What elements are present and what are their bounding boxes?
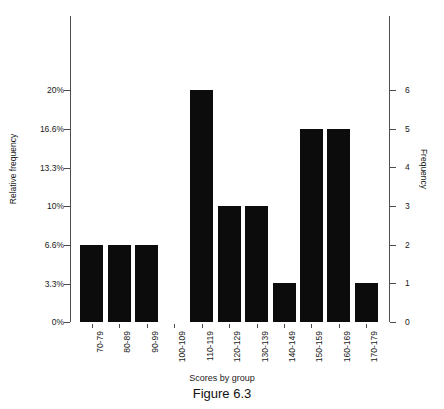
- x-axis-tick: [284, 324, 285, 328]
- y-axis-left-tick: [64, 168, 70, 169]
- x-axis-tick-label: 120-129: [233, 331, 242, 362]
- x-axis-tick: [202, 324, 203, 328]
- x-axis-tick-label: 150-159: [315, 331, 324, 362]
- bar-series: [70, 16, 390, 322]
- figure-caption: Figure 6.3: [0, 386, 444, 401]
- bar: [108, 245, 131, 322]
- y-axis-left-tick-labels: 0%3.3%6.6%10%13.3%16.6%20%: [24, 16, 64, 322]
- y-axis-right-tick-label: 2: [396, 241, 444, 250]
- y-axis-left-tick-label: 6.6%: [24, 241, 64, 250]
- bar: [245, 206, 268, 322]
- x-axis-tick: [147, 324, 148, 328]
- x-axis-tick-label: 130-139: [261, 331, 270, 362]
- y-axis-left-tick-label: 10%: [24, 202, 64, 211]
- x-axis-tick: [311, 324, 312, 328]
- y-axis-left-tick: [64, 322, 70, 323]
- x-axis-tick: [257, 324, 258, 328]
- bar: [80, 245, 103, 322]
- x-axis-tick-label: 140-149: [288, 331, 297, 362]
- y-axis-right-tick-labels: 0123456: [396, 16, 436, 322]
- x-axis-tick-label: 110-119: [206, 331, 215, 361]
- x-axis-tick: [229, 324, 230, 328]
- y-axis-left-tick-label: 20%: [24, 86, 64, 95]
- x-axis-tick-label: 100-109: [178, 331, 187, 362]
- y-axis-right-tick-label: 6: [396, 86, 444, 95]
- x-axis-tick-label: 90-99: [151, 331, 160, 353]
- y-axis-right-tick-label: 1: [396, 279, 444, 288]
- y-axis-left-tick: [64, 245, 70, 246]
- y-axis-left-tick-label: 0%: [24, 318, 64, 327]
- x-axis-tick-labels: 70-7980-8990-99100-109110-119120-129130-…: [70, 324, 390, 372]
- x-axis-tick-label: 160-169: [343, 331, 352, 362]
- y-axis-right-tick-label: 0: [396, 318, 444, 327]
- y-axis-left-tick-label: 16.6%: [24, 125, 64, 134]
- plot-area: [70, 16, 390, 322]
- y-axis-left-tick: [64, 284, 70, 285]
- bar: [218, 206, 241, 322]
- y-axis-left-tick-label: 13.3%: [24, 164, 64, 173]
- y-axis-left-tick: [64, 206, 70, 207]
- bar: [327, 129, 350, 322]
- x-axis-tick: [339, 324, 340, 328]
- y-axis-left-tick: [64, 90, 70, 91]
- bar: [355, 283, 378, 322]
- x-axis-tick-label: 170-179: [370, 331, 379, 362]
- y-axis-left-tick: [64, 129, 70, 130]
- x-axis-title: Scores by group: [0, 373, 444, 383]
- bar: [300, 129, 323, 322]
- figure-6-3: 0%3.3%6.6%10%13.3%16.6%20% 0123456 70-79…: [0, 0, 444, 409]
- x-axis-tick-label: 80-89: [123, 331, 132, 353]
- bar: [190, 90, 213, 322]
- x-axis-tick: [174, 324, 175, 328]
- y-axis-left-tick-label: 3.3%: [24, 280, 64, 289]
- x-axis-tick: [366, 324, 367, 328]
- x-axis-tick: [119, 324, 120, 328]
- bar: [273, 283, 296, 322]
- x-axis-tick-label: 70-79: [96, 331, 105, 353]
- x-axis-tick: [92, 324, 93, 328]
- y-axis-right-title: Frequency: [419, 149, 429, 189]
- bar: [135, 245, 158, 322]
- y-axis-right-tick-label: 3: [396, 202, 444, 211]
- y-axis-right-tick-label: 5: [396, 125, 444, 134]
- y-axis-left-title: Relative frequency: [8, 134, 18, 204]
